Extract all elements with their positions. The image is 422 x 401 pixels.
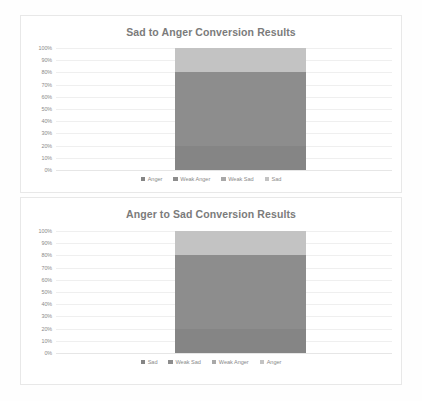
y-axis-tick-label: 0% (44, 167, 52, 173)
legend-swatch-icon (221, 177, 226, 182)
legend-swatch-icon (265, 177, 270, 182)
legend-label: Weak Sad (228, 176, 253, 182)
gridline (56, 353, 392, 354)
stacked-bar[interactable] (175, 48, 306, 170)
y-axis-tick-label: 10% (42, 155, 53, 161)
chart-panel-anger-to-sad: Anger to Sad Conversion Results 100%90%8… (20, 197, 402, 385)
bar-segment[interactable] (175, 146, 306, 170)
plot-area: 100%90%80%70%60%50%40%30%20%10%0% (56, 231, 392, 353)
legend-swatch-icon (141, 360, 146, 365)
legend-swatch-icon (141, 177, 146, 182)
legend-label: Weak Anger (219, 359, 249, 365)
chart-legend: AngerWeak AngerWeak SadSad (21, 176, 401, 182)
y-axis-tick-label: 60% (42, 94, 53, 100)
chart-panel-sad-to-anger: Sad to Anger Conversion Results 100%90%8… (20, 15, 402, 193)
legend-label: Anger (267, 359, 282, 365)
legend-label: Weak Anger (180, 176, 210, 182)
legend-swatch-icon (212, 360, 217, 365)
y-axis-tick-label: 0% (44, 350, 52, 356)
legend-label: Sad (148, 359, 158, 365)
bar-segment[interactable] (175, 48, 306, 72)
y-axis-tick-label: 30% (42, 130, 53, 136)
chart-page: Sad to Anger Conversion Results 100%90%8… (0, 0, 422, 401)
legend-swatch-icon (168, 360, 173, 365)
y-axis-tick-label: 30% (42, 313, 53, 319)
y-axis-tick-label: 100% (39, 45, 52, 51)
y-axis-tick-label: 80% (42, 252, 53, 258)
legend-item[interactable]: Anger (141, 176, 163, 182)
bar-wrap (56, 231, 392, 353)
gridline (56, 170, 392, 171)
legend-item[interactable]: Sad (141, 359, 158, 365)
y-axis-tick-label: 20% (42, 143, 53, 149)
bar-segment[interactable] (175, 72, 306, 145)
legend-label: Anger (148, 176, 163, 182)
y-axis-tick-label: 60% (42, 277, 53, 283)
legend-item[interactable]: Sad (265, 176, 282, 182)
y-axis-tick-label: 70% (42, 82, 53, 88)
y-axis-tick-label: 40% (42, 118, 53, 124)
bar-wrap (56, 48, 392, 170)
bar-segment[interactable] (175, 329, 306, 353)
y-axis-tick-label: 40% (42, 301, 53, 307)
chart-legend: SadWeak SadWeak AngerAnger (21, 359, 401, 365)
legend-item[interactable]: Weak Sad (221, 176, 253, 182)
bar-segment[interactable] (175, 255, 306, 328)
legend-label: Sad (272, 176, 282, 182)
legend-item[interactable]: Anger (260, 359, 282, 365)
legend-swatch-icon (173, 177, 178, 182)
legend-item[interactable]: Weak Sad (168, 359, 200, 365)
y-axis-tick-label: 50% (42, 289, 53, 295)
y-axis-tick-label: 70% (42, 265, 53, 271)
bar-segment[interactable] (175, 231, 306, 255)
chart-title: Sad to Anger Conversion Results (21, 26, 401, 38)
y-axis-tick-label: 10% (42, 338, 53, 344)
y-axis-tick-label: 100% (39, 228, 52, 234)
stacked-bar[interactable] (175, 231, 306, 353)
y-axis-tick-label: 90% (42, 57, 53, 63)
legend-item[interactable]: Weak Anger (212, 359, 249, 365)
y-axis-tick-label: 90% (42, 240, 53, 246)
y-axis-tick-label: 20% (42, 326, 53, 332)
legend-item[interactable]: Weak Anger (173, 176, 210, 182)
y-axis-tick-label: 80% (42, 69, 53, 75)
legend-label: Weak Sad (175, 359, 200, 365)
y-axis-tick-label: 50% (42, 106, 53, 112)
chart-title: Anger to Sad Conversion Results (21, 208, 401, 220)
plot-area: 100%90%80%70%60%50%40%30%20%10%0% (56, 48, 392, 170)
legend-swatch-icon (260, 360, 265, 365)
